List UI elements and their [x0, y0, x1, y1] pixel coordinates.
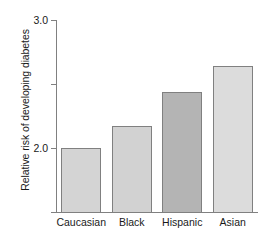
y-tick-mark: 2.0 — [51, 84, 56, 85]
y-tick-mark: 0 — [51, 212, 56, 213]
category-label: Asian — [220, 216, 246, 228]
bar — [112, 126, 152, 212]
category-label: Caucasian — [56, 216, 106, 228]
bar — [162, 92, 202, 212]
y-axis-line — [56, 20, 57, 212]
bar — [213, 66, 253, 212]
y-tick-mark: 3.0 — [51, 20, 56, 21]
bar-chart: Relative risk of developing diabetes 01.… — [0, 0, 262, 240]
x-axis-line — [56, 212, 258, 213]
category-label: Black — [119, 216, 145, 228]
bar — [61, 148, 101, 212]
y-tick-label: 3.0 — [33, 14, 48, 26]
category-label: Hispanic — [162, 216, 202, 228]
y-tick-mark: 1.0 — [51, 148, 56, 149]
y-axis-label: Relative risk of developing diabetes — [19, 18, 31, 203]
y-tick-label: 2.0 — [33, 142, 48, 154]
plot-area: 01.02.03.0 CaucasianBlackHispanicAsian — [56, 20, 258, 212]
